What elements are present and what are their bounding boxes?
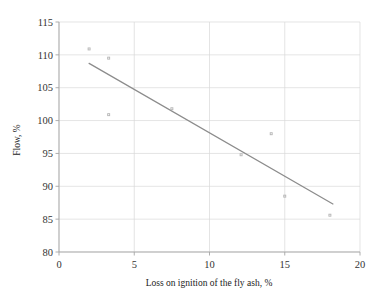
y-tick-label: 85 xyxy=(43,214,54,225)
data-point-marker xyxy=(171,108,173,110)
y-tick-label: 95 xyxy=(43,148,54,159)
scatter-chart: 80859095100105110115 05101520 Loss on ig… xyxy=(0,0,385,294)
trend-line xyxy=(89,63,333,204)
y-tick-label: 100 xyxy=(37,115,53,126)
y-tick-label: 105 xyxy=(37,82,53,93)
x-tick-label: 5 xyxy=(132,259,137,270)
data-point-marker xyxy=(270,133,272,135)
x-tick-label: 10 xyxy=(204,259,215,270)
data-point-marker xyxy=(88,48,90,50)
y-tick-label: 90 xyxy=(43,181,54,192)
data-point-marker xyxy=(329,214,331,216)
x-axis-title: Loss on ignition of the fly ash, % xyxy=(146,278,273,288)
x-tick-label: 0 xyxy=(56,259,61,270)
x-axis-tick-labels: 05101520 xyxy=(56,259,365,270)
data-point-marker xyxy=(240,154,242,156)
y-tick-label: 110 xyxy=(38,50,53,61)
y-axis-tick-labels: 80859095100105110115 xyxy=(37,17,53,258)
y-tick-label: 80 xyxy=(43,247,54,258)
x-tick-label: 20 xyxy=(355,259,366,270)
y-axis-title: Flow, % xyxy=(12,124,22,156)
x-tick-label: 15 xyxy=(280,259,291,270)
trend-line-path xyxy=(89,63,333,204)
grid-lines xyxy=(59,22,360,252)
plot-canvas: 80859095100105110115 05101520 Loss on ig… xyxy=(0,0,385,294)
data-point-marker xyxy=(108,57,110,59)
y-tick-label: 115 xyxy=(38,17,53,28)
tick-marks xyxy=(56,22,361,256)
data-point-marker xyxy=(108,114,110,116)
